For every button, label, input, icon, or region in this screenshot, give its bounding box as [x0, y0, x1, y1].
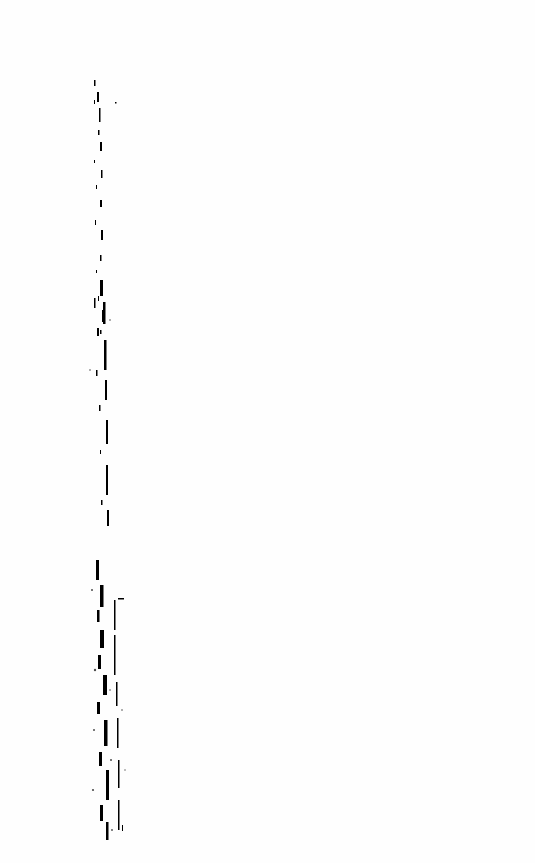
blank-page — [0, 0, 535, 863]
scan-noise-graphic — [70, 70, 140, 860]
scan-edge-noise — [70, 70, 140, 860]
